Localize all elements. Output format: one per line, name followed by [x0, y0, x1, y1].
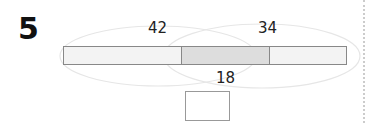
problem-number: 5	[18, 14, 39, 44]
answer-box[interactable]	[185, 91, 230, 121]
bar-segment-left	[63, 46, 182, 65]
dotted-divider	[363, 0, 365, 123]
label-right-total: 34	[258, 21, 277, 36]
label-left-total: 42	[148, 21, 167, 36]
bar-segment-overlap	[181, 46, 270, 65]
label-overlap: 18	[216, 71, 235, 86]
bar-segment-right	[269, 46, 347, 65]
